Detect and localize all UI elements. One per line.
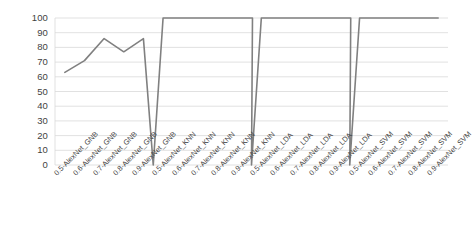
y-axis-tick-label: 20: [22, 131, 48, 141]
y-axis-tick-label: 30: [22, 116, 48, 126]
y-axis-tick-label: 60: [22, 72, 48, 82]
y-axis-tick-label: 10: [22, 145, 48, 155]
y-axis-tick-label: 0: [22, 160, 48, 170]
y-axis-tick-label: 90: [22, 28, 48, 38]
y-axis-tick-label: 50: [22, 87, 48, 97]
y-axis-tick-label: 40: [22, 101, 48, 111]
y-axis-tick-label: 80: [22, 42, 48, 52]
y-axis-tick-label: 100: [22, 13, 48, 23]
y-axis-tick-label: 70: [22, 57, 48, 67]
